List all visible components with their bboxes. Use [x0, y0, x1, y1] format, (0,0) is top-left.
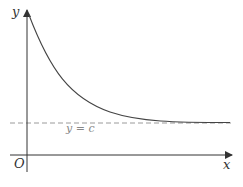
origin-label: O	[14, 157, 25, 170]
x-axis-label: x	[223, 158, 230, 171]
chart-canvas	[0, 0, 243, 187]
y-axis-label: y	[12, 5, 19, 18]
decay-curve	[29, 15, 230, 123]
asymptote-label: y = c	[66, 123, 95, 134]
